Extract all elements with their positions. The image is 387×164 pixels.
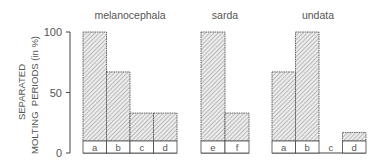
y-axis-label-line2: MOLTING PERIODS (in %) xyxy=(29,36,40,154)
category-label: b xyxy=(116,142,121,153)
bar xyxy=(201,32,225,141)
bar-group-undata: undataabcd xyxy=(272,9,366,153)
category-label: f xyxy=(236,142,239,153)
category-label: d xyxy=(163,142,168,153)
bar xyxy=(296,32,320,141)
bar xyxy=(83,32,107,141)
bar xyxy=(154,113,178,141)
category-label: c xyxy=(328,142,333,153)
bar xyxy=(225,113,249,141)
category-label: b xyxy=(305,142,310,153)
y-axis-label-line1: SEPARATED xyxy=(16,64,27,120)
y-tick-label: 100 xyxy=(44,26,62,38)
y-tick-label: 50 xyxy=(50,87,62,99)
bar xyxy=(343,132,367,141)
group-title: melanocephala xyxy=(94,9,165,21)
group-title: sarda xyxy=(212,9,238,21)
y-axis: 050100 xyxy=(44,26,70,159)
bar xyxy=(107,72,131,141)
bar-group-melanocephala: melanocephalaabcd xyxy=(83,9,177,153)
category-label: a xyxy=(281,142,287,153)
bar-groups: melanocephalaabcdsardaefundataabcd xyxy=(83,9,366,153)
category-label: c xyxy=(139,142,144,153)
group-title: undata xyxy=(302,9,334,21)
y-tick-label: 0 xyxy=(56,147,62,159)
molting-chart: 050100 melanocephalaabcdsardaefundataabc… xyxy=(0,0,387,164)
category-label: a xyxy=(92,142,98,153)
bar-group-sarda: sardaef xyxy=(201,9,249,153)
category-label: e xyxy=(210,142,215,153)
bar xyxy=(272,72,296,141)
category-label: d xyxy=(352,142,357,153)
bar xyxy=(130,113,154,141)
